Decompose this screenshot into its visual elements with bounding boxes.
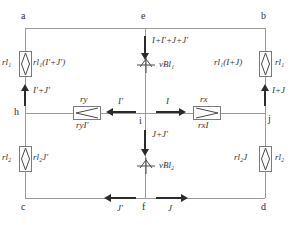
- emf-source-vbl1-label-text: vBl₁: [159, 59, 174, 69]
- emf-source-vbl2-label-text: vBl₂: [159, 160, 174, 170]
- circuit-diagram: a e b h i j c f d rl₁ rl₁(I′+J′) I′+J′ r…: [0, 0, 299, 225]
- current-arrow-center-down: [141, 130, 150, 156]
- resistor-rx-value-text: rxI: [198, 120, 209, 130]
- current-arrow-right-up: [261, 84, 270, 106]
- resistor-rx: [193, 106, 221, 120]
- resistor-rl2-right: [259, 146, 272, 172]
- resistor-arrow-icon: [194, 107, 220, 119]
- resistor-rl1-left-value-text: rl₁(I′+J′): [33, 57, 65, 67]
- current-label-bottom-left: J′: [117, 204, 123, 213]
- resistor-rl1-left-value: rl₁(I′+J′): [33, 58, 65, 67]
- resistor-rx-symbol-text: rx: [200, 94, 208, 104]
- wire-bottom-rail: [25, 198, 265, 199]
- resistor-rl1-right: [259, 51, 272, 77]
- emf-source-icon: [136, 57, 156, 73]
- resistor-rl1-left-symbol-text: rl₁: [2, 57, 11, 67]
- node-label-a: a: [21, 11, 25, 21]
- current-arrow-left-up: [21, 84, 30, 106]
- resistor-rl2-left-value-text: rl₂J′: [33, 152, 48, 162]
- resistor-rl1-left-symbol: rl₁: [2, 58, 11, 67]
- node-label-d: d: [261, 202, 266, 212]
- emf-source-icon: [136, 158, 156, 174]
- node-label-f: f: [142, 202, 145, 212]
- current-label-mid-left: I′: [118, 97, 123, 106]
- current-label-right-up: I+J: [272, 86, 285, 95]
- resistor-rl1-right-value: rl₁(I+J): [214, 58, 242, 67]
- resistor-ry-symbol-text: ry: [80, 94, 88, 104]
- node-label-e: e: [141, 11, 145, 21]
- resistor-rl1-right-symbol-text: rl₁: [275, 57, 284, 67]
- resistor-rl2-left-symbol: rl₂: [2, 153, 11, 162]
- resistor-ry-value: ryI′: [76, 121, 88, 130]
- current-label-mid-right: I: [166, 97, 169, 106]
- resistor-rl1-right-value-text: rl₁(I+J): [214, 57, 242, 67]
- current-label-top-center: I+I′+J+J′: [152, 36, 188, 45]
- current-arrow-mid-right: [156, 108, 186, 117]
- current-label-center-down: J+J′: [152, 130, 168, 139]
- current-label-bottom-right: J: [168, 204, 172, 213]
- resistor-ry-value-text: ryI′: [76, 120, 88, 130]
- emf-source-vbl1-label: vBl₁: [159, 60, 174, 69]
- resistor-rx-value: rxI: [198, 121, 209, 130]
- node-label-j: j: [268, 114, 271, 124]
- resistor-zigzag-icon: [260, 52, 271, 76]
- current-arrow-mid-left: [106, 108, 136, 117]
- resistor-zigzag-icon: [20, 52, 31, 76]
- resistor-ry: [73, 106, 101, 120]
- current-label-left-up-text: I′+J′: [33, 85, 50, 95]
- current-label-top-center-text: I+I′+J+J′: [152, 35, 188, 45]
- node-label-h: h: [14, 107, 19, 117]
- resistor-zigzag-icon: [260, 147, 271, 171]
- node-label-i: i: [139, 116, 142, 126]
- node-label-c: c: [21, 202, 25, 212]
- resistor-rl2-left-symbol-text: rl₂: [2, 152, 11, 162]
- resistor-rl1-left: [19, 51, 32, 77]
- resistor-rx-symbol: rx: [200, 95, 208, 104]
- current-label-mid-right-text: I: [166, 96, 169, 106]
- node-label-b: b: [261, 11, 266, 21]
- emf-source-vbl2-label: vBl₂: [159, 161, 174, 170]
- resistor-rl2-right-symbol: rl₂: [275, 153, 284, 162]
- emf-source-vbl1: [136, 57, 156, 77]
- current-label-center-down-text: J+J′: [152, 129, 168, 139]
- current-label-bottom-right-text: J: [168, 203, 172, 213]
- current-label-left-up: I′+J′: [33, 86, 50, 95]
- current-arrow-bottom-right: [156, 194, 188, 203]
- current-label-bottom-left-text: J′: [117, 203, 123, 213]
- resistor-rl2-right-value: rl₂J: [234, 153, 247, 162]
- resistor-rl2-right-symbol-text: rl₂: [275, 152, 284, 162]
- resistor-ry-symbol: ry: [80, 95, 88, 104]
- resistor-zigzag-icon: [20, 147, 31, 171]
- resistor-arrow-icon: [74, 107, 100, 119]
- resistor-rl2-left-value: rl₂J′: [33, 153, 48, 162]
- current-arrow-bottom-left: [104, 194, 136, 203]
- resistor-rl2-right-value-text: rl₂J: [234, 152, 247, 162]
- resistor-rl2-left: [19, 146, 32, 172]
- current-label-mid-left-text: I′: [118, 96, 123, 106]
- current-label-right-up-text: I+J: [272, 85, 285, 95]
- resistor-rl1-right-symbol: rl₁: [275, 58, 284, 67]
- emf-source-vbl2: [136, 158, 156, 178]
